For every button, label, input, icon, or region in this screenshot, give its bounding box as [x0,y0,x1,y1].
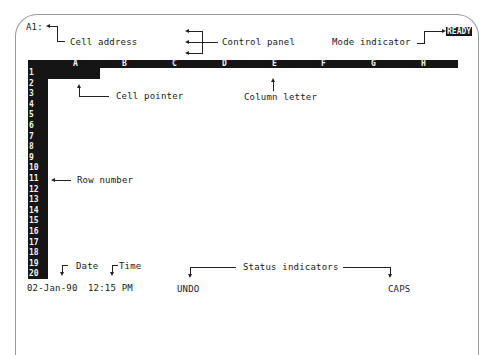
row-header[interactable]: 18 [29,248,39,258]
row-header[interactable]: 12 [29,185,39,195]
status-indicator-undo: UNDO [177,284,199,294]
arrow-down-icon [60,272,64,276]
callout-line [62,265,68,266]
cell-pointer-a1[interactable] [48,68,100,79]
row-header[interactable]: 19 [29,259,39,269]
callout-line [390,267,391,274]
callout-line [202,42,218,43]
status-time: 12:15 PM [88,283,133,293]
callout-line [57,41,65,42]
callout-line [190,267,236,268]
callout-line [112,265,118,266]
callout-line [417,43,424,44]
callout-line [79,96,109,97]
callout-line [50,26,57,27]
row-header[interactable]: 3 [29,89,34,99]
row-header[interactable]: 14 [29,206,39,216]
column-header-bar: A B C D E F G H [28,60,458,68]
column-header-d[interactable]: D [222,60,227,68]
callout-line [55,180,71,181]
row-header[interactable]: 10 [29,163,39,173]
status-date: 02-Jan-90 [27,283,78,293]
callout-line [424,31,442,32]
callout-status-indicators: Status indicators [243,262,339,272]
row-header[interactable]: 4 [29,100,34,110]
row-header[interactable]: 13 [29,195,39,205]
column-header-g[interactable]: G [371,60,376,68]
row-header[interactable]: 7 [29,132,34,142]
callout-line [79,88,80,96]
arrow-down-icon [388,274,392,278]
column-header-c[interactable]: C [172,60,177,68]
arrow-down-icon [110,272,114,276]
mode-indicator: READY [446,27,472,36]
cell-address: A1: [26,22,43,32]
column-header-a[interactable]: A [73,60,78,68]
callout-line [273,82,274,91]
callout-cell-address: Cell address [70,37,137,47]
row-header[interactable]: 1 [29,68,34,78]
column-header-b[interactable]: B [122,60,127,68]
callout-line [424,31,425,44]
row-header[interactable]: 15 [29,216,39,226]
arrow-down-icon [188,274,192,278]
row-header[interactable]: 5 [29,110,34,120]
row-header[interactable]: 17 [29,238,39,248]
callout-line [57,26,58,41]
callout-line [190,267,191,274]
callout-cell-pointer: Cell pointer [116,91,183,101]
callout-row-number: Row number [77,175,133,185]
column-header-e[interactable]: E [272,60,277,68]
row-header[interactable]: 20 [29,269,39,279]
callout-line [112,265,113,272]
row-header[interactable]: 11 [29,174,39,184]
callout-mode-indicator: Mode indicator [332,37,411,47]
callout-line [343,267,390,268]
row-header[interactable]: 16 [29,227,39,237]
column-header-h[interactable]: H [421,60,426,68]
callout-control-panel: Control panel [222,37,295,47]
row-header[interactable]: 2 [29,79,34,89]
status-indicator-caps: CAPS [388,284,410,294]
callout-line [189,42,202,43]
callout-column-letter: Column letter [244,92,317,102]
row-header[interactable]: 8 [29,142,34,152]
row-header-bar: 1 2 3 4 5 6 7 8 9 10 11 12 13 14 15 16 1… [28,68,48,279]
callout-time: Time [119,261,141,271]
row-header[interactable]: 9 [29,153,34,163]
callout-line [189,53,202,54]
column-header-f[interactable]: F [321,60,326,68]
row-header[interactable]: 6 [29,121,34,131]
callout-date: Date [76,261,98,271]
callout-line [189,31,202,32]
callout-line [62,265,63,272]
